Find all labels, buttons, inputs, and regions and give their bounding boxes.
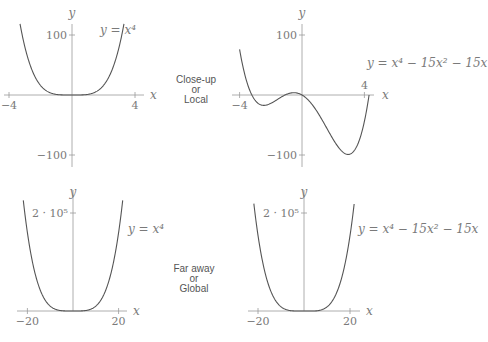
equation-label: y = x⁴ [127,222,164,236]
equation-label: y = x⁴ − 15x² − 15x [357,222,479,236]
x-tick-label: −4 [1,99,17,112]
x-axis-label: x [366,304,373,318]
y-axis-label: y [300,185,308,199]
x-tick-label: 4 [132,99,139,112]
x-tick-label: −20 [246,315,269,328]
x-axis-label: x [133,304,140,318]
figure-canvas: xy−44100−100y = x⁴ xy−44100−100y = x⁴ − … [0,0,488,342]
equation-label: y = x⁴ [99,23,136,37]
y-tick-label: 100 [46,29,67,42]
x-tick-label: 4 [361,79,368,92]
y-tick-label: −100 [267,149,297,162]
y-tick-label: 2 · 10⁵ [263,207,299,220]
y-tick-label: −100 [37,149,67,162]
x-axis-label: x [150,88,157,102]
x-tick-label: 20 [343,315,357,328]
chart-top-left: xy−44100−100y = x⁴ [1,6,157,167]
y-axis-label: y [69,185,77,199]
equation-label: y = x⁴ − 15x² − 15x [366,56,488,70]
x-tick-label: −4 [231,99,247,112]
chart-bottom-left: xy−20202 · 10⁵y = x⁴ [16,185,164,328]
x-tick-label: −20 [16,315,39,328]
function-curve [240,49,369,154]
chart-top-right: xy−44100−100y = x⁴ − 15x² − 15x [231,6,487,167]
chart-bottom-right: xy−20202 · 10⁵y = x⁴ − 15x² − 15x [246,185,478,328]
far-label-line3: Global [180,283,209,294]
y-axis-label: y [298,6,306,20]
close-label-line3: Local [184,94,208,105]
y-tick-label: 100 [276,29,297,42]
y-tick-label: 2 · 10⁵ [32,207,68,220]
x-tick-label: 20 [112,315,126,328]
x-axis-label: x [382,88,389,102]
y-axis-label: y [68,6,76,20]
